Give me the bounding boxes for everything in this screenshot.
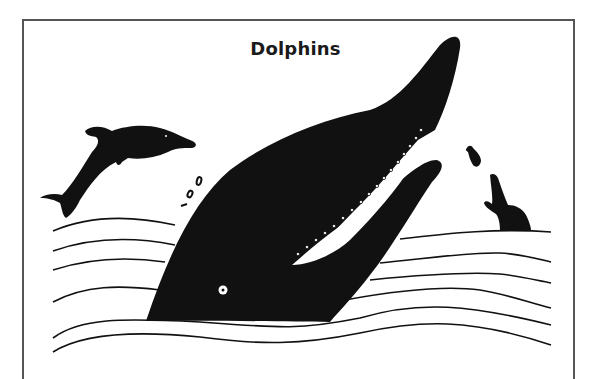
splash-drops-icon bbox=[181, 177, 202, 206]
leaping-dolphin-icon bbox=[40, 126, 196, 218]
fish-icon bbox=[466, 146, 481, 167]
large-dolphin-icon bbox=[146, 37, 460, 322]
small-dolphin-icon bbox=[484, 174, 531, 231]
